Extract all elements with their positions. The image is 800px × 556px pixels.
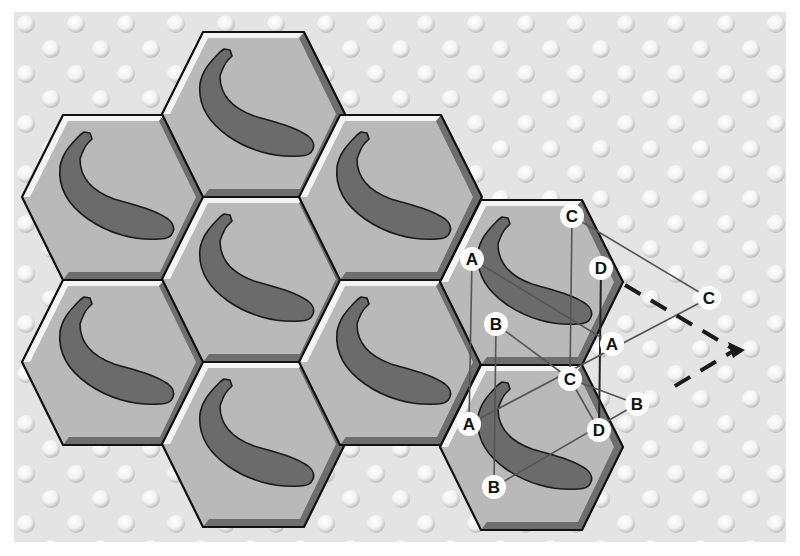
point-label: A — [460, 247, 484, 271]
point-label: C — [697, 286, 721, 310]
svg-text:B: B — [631, 395, 643, 414]
svg-text:B: B — [488, 478, 500, 497]
point-label: D — [587, 418, 611, 442]
point-label: A — [457, 412, 481, 436]
svg-text:C: C — [566, 207, 578, 226]
point-label: C — [560, 204, 584, 228]
point-label: B — [625, 392, 649, 416]
svg-text:B: B — [490, 315, 502, 334]
hex-tile-diagram: C A D C B A C B A D B — [0, 0, 800, 556]
svg-text:A: A — [606, 335, 618, 354]
svg-text:C: C — [703, 289, 715, 308]
svg-text:A: A — [466, 250, 478, 269]
point-label: B — [484, 312, 508, 336]
point-label: D — [589, 256, 613, 280]
svg-text:C: C — [564, 370, 576, 389]
svg-text:A: A — [463, 415, 475, 434]
point-label: C — [558, 367, 582, 391]
point-label: A — [600, 332, 624, 356]
svg-text:D: D — [595, 259, 607, 278]
point-label: B — [482, 475, 506, 499]
svg-text:D: D — [593, 421, 605, 440]
